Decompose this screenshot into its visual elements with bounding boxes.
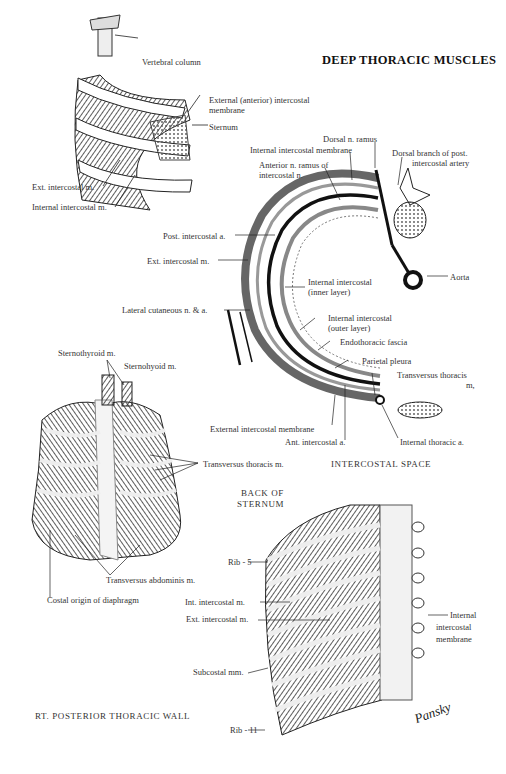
sternum-figure [32,360,198,598]
label-sternohyoid: Sternohyoid m. [124,361,176,371]
label-external-membrane-2: External intercostal membrane [210,424,314,434]
label-ext-intercostal-3: Ext. intercostal m. [186,614,248,624]
label-internal-outer-cont: (outer layer) [328,323,370,333]
caption-back-of-sternum-cont: STERNUM [237,499,284,509]
label-rib-11: Rib - 11 [230,725,258,735]
label-endothoracic-fascia: Endothoracic fascia [340,337,407,347]
page-title: DEEP THORACIC MUSCLES [322,53,496,68]
label-ext-intercostal: Ext. intercostal m. [32,182,94,192]
label-internal-membrane-2-cont2: membrane [436,634,472,644]
rib-segment-figure [75,15,208,210]
label-sternum: Sternum [209,122,238,132]
label-rib-5: Rib - 5 [228,557,252,567]
label-internal-inner: Internal intercostal [308,277,372,287]
caption-back-of-sternum: BACK OF [241,488,284,498]
label-internal-membrane-2: Internal [450,610,476,620]
label-aorta: Aorta [450,272,469,282]
label-internal-membrane-2-cont: intercostal [436,622,471,632]
label-anterior-ramus-cont: intercostal n. [259,170,303,180]
label-transversus-thoracis: Transversus thoracis [397,370,467,380]
label-internal-outer: Internal intercostal [328,313,392,323]
label-int-intercostal: Int. intercostal m. [185,597,245,607]
label-costal-origin-diaphragm: Costal origin of diaphragm [47,595,139,605]
label-internal-intercostal: Internal intercostal m. [32,202,107,212]
label-internal-inner-cont: (inner layer) [308,287,350,297]
label-transversus-abdominis: Transversus abdominis m. [106,575,195,585]
label-sternothyroid: Sternothyroid m. [58,348,116,358]
label-transversus-thoracis-cont: m, [466,380,475,390]
label-external-membrane-cont: membrane [209,105,245,115]
caption-intercostal-space: INTERCOSTAL SPACE [331,459,431,469]
label-anterior-ramus: Anterior n. ramus of [259,160,328,170]
label-internal-membrane: Internal intercostal membrane [250,145,352,155]
label-ant-intercostal-a: Ant. intercostal a. [285,437,345,447]
caption-posterior-thoracic-wall: RT. POSTERIOR THORACIC WALL [35,711,190,721]
label-lateral-cutaneous: Lateral cutaneous n. & a. [122,305,207,315]
label-dorsal-ramus: Dorsal n. ramus [323,134,377,144]
label-vertebral-column: Vertebral column [142,57,201,67]
posterior-wall-figure [248,505,448,735]
label-parietal-pleura: Parietal pleura [362,356,411,366]
label-external-membrane: External (anterior) intercostal [209,95,310,105]
label-dorsal-branch-cont: intercostal artery [412,158,469,168]
label-ext-intercostal-2: Ext. intercostal m. [147,256,209,266]
label-post-intercostal-a: Post. intercostal a. [163,231,225,241]
label-subcostal: Subcostal mm. [193,667,244,677]
label-internal-thoracic-a: Internal thoracic a. [400,437,464,447]
label-dorsal-branch: Dorsal branch of post. [392,148,468,158]
label-transversus-thoracis-m: Transversus thoracis m. [203,459,284,469]
anatomy-illustrations [0,0,506,774]
